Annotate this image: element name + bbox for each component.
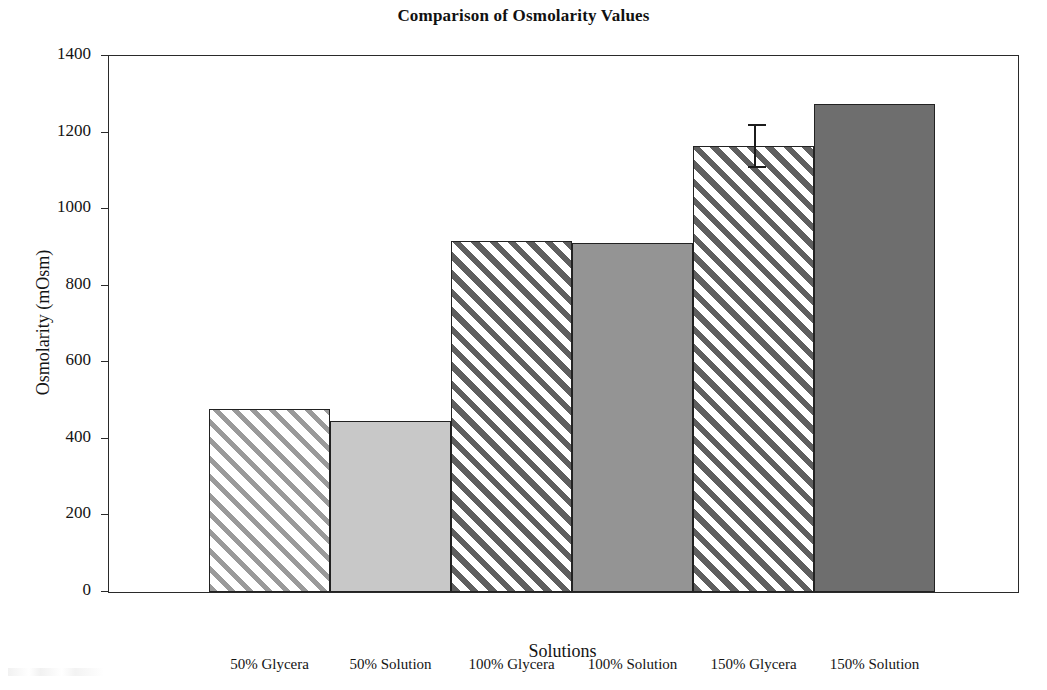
bar-2 xyxy=(330,421,451,592)
scan-artifact xyxy=(8,668,104,676)
bar-4 xyxy=(572,243,693,592)
y-tick-mark xyxy=(101,132,109,133)
y-tick-label: 200 xyxy=(17,503,91,523)
error-bar-5 xyxy=(754,125,756,167)
y-tick-mark xyxy=(101,591,109,592)
bar-1 xyxy=(209,409,330,592)
bar-6 xyxy=(814,104,935,592)
y-tick-mark xyxy=(101,514,109,515)
bar-3 xyxy=(451,241,572,592)
y-tick-label: 400 xyxy=(17,427,91,447)
bars-layer xyxy=(109,56,1018,592)
plot-area: Osmolarity (mOsm) 0200400600800100012001… xyxy=(108,55,1019,593)
y-tick-mark xyxy=(101,285,109,286)
y-tick-label: 800 xyxy=(17,274,91,294)
y-tick-label: 600 xyxy=(17,350,91,370)
x-axis-title: Solutions xyxy=(108,641,1017,662)
bar-chart-figure: Comparison of Osmolarity Values Osmolari… xyxy=(0,0,1047,690)
y-tick-mark xyxy=(101,361,109,362)
y-tick-mark xyxy=(101,438,109,439)
y-tick-mark xyxy=(101,208,109,209)
y-tick-mark xyxy=(101,55,109,56)
y-tick-label: 1000 xyxy=(17,197,91,217)
bar-5 xyxy=(693,146,814,592)
y-tick-label: 1200 xyxy=(17,121,91,141)
y-tick-label: 1400 xyxy=(17,44,91,64)
y-tick-label: 0 xyxy=(17,580,91,600)
chart-title: Comparison of Osmolarity Values xyxy=(0,6,1047,26)
